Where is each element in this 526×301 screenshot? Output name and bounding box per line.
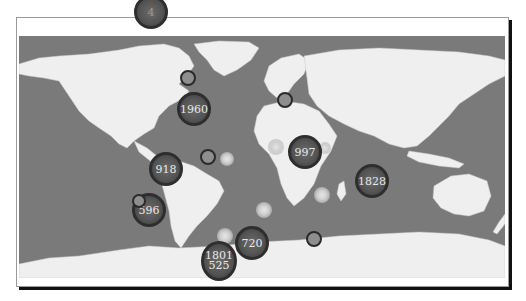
cluster-count: 918 [156, 163, 177, 176]
cluster-marker-southern-ocean[interactable]: 1801 525 [201, 241, 237, 281]
cluster-marker-north-atlantic[interactable]: 1960 [177, 92, 211, 126]
small-marker-brazil[interactable] [200, 149, 216, 165]
small-marker-south-indian[interactable] [306, 231, 322, 247]
new-zealand [493, 214, 505, 234]
cluster-count: 997 [295, 146, 316, 159]
small-marker-newfoundland[interactable] [180, 70, 196, 86]
cluster-count-bottom: 525 [209, 261, 230, 271]
greenland [194, 41, 259, 76]
glow-marker-gulf-guinea[interactable] [268, 139, 284, 155]
cluster-marker-indian-ocean[interactable]: 1828 [355, 164, 389, 198]
north-america [19, 44, 194, 148]
madagascar [337, 181, 346, 201]
cluster-count: 1828 [358, 175, 386, 188]
glow-marker-atlantic-eq[interactable] [220, 152, 234, 166]
cluster-count: 4 [148, 6, 155, 19]
cluster-count: 1960 [180, 103, 208, 116]
cluster-marker-east-pacific[interactable]: 918 [149, 152, 183, 186]
indonesia [407, 151, 464, 168]
cluster-count: 720 [242, 237, 263, 250]
australia [433, 174, 491, 216]
small-marker-mediterranean[interactable] [277, 92, 293, 108]
cluster-marker-south-atlantic[interactable]: 720 [235, 226, 269, 260]
small-marker-chile[interactable] [132, 194, 146, 208]
cluster-marker-africa[interactable]: 997 [288, 135, 322, 169]
glow-marker-madagascar-e[interactable] [314, 187, 330, 203]
glow-marker-south-atlantic-mid[interactable] [256, 202, 272, 218]
